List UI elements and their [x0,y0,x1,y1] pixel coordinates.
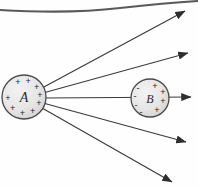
top-curved-line [0,1,198,12]
plus-charge-icon: + [154,105,159,115]
minus-charge-icon: - [137,83,140,93]
physics-figure-container: +++++++++ A ----++++ B [0,0,198,189]
sphere-a: +++++++++ A [2,75,46,119]
minus-charge-icon: - [140,107,143,117]
upper-outer-field-line [42,11,185,88]
plus-charge-icon: + [152,81,157,91]
plus-charge-icon: + [26,76,31,86]
sphere-b-label: B [146,92,154,106]
plus-charge-icon: + [160,96,165,106]
plus-charge-icon: + [36,98,41,108]
sphere-a-label: A [19,90,29,105]
plus-charge-icon: + [15,77,20,87]
lower-outer-field-line [42,108,172,182]
sphere-b: ----++++ B [131,79,169,117]
plus-charge-icon: + [30,106,35,116]
plus-charge-icon: + [20,108,25,118]
plus-charge-icon: + [10,103,15,113]
figure-canvas: +++++++++ A ----++++ B [0,0,198,189]
plus-charge-icon: + [5,93,10,103]
minus-charge-icon: - [135,100,138,110]
